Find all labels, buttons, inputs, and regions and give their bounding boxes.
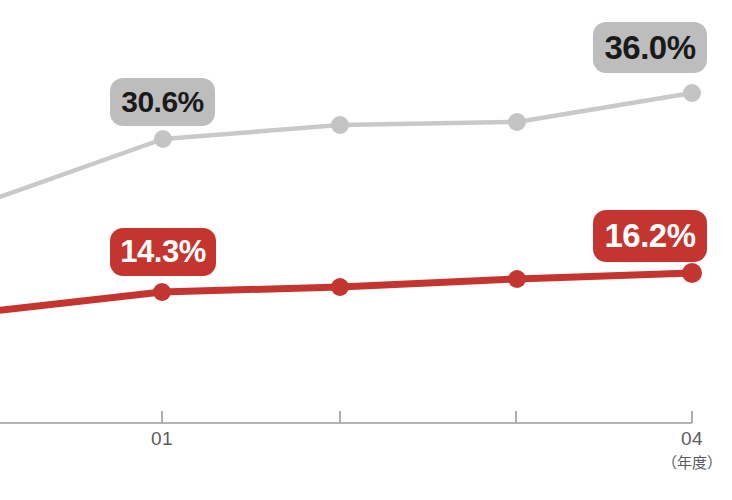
red-point-04 xyxy=(682,263,702,283)
value-badge-gray-01: 30.6% xyxy=(110,78,215,126)
x-axis-ticks xyxy=(162,411,692,423)
gray-point-03 xyxy=(508,113,526,131)
red-point-03 xyxy=(508,270,526,288)
red-point-01 xyxy=(153,283,171,301)
value-badge-gray-04: 36.0% xyxy=(593,22,707,73)
x-axis-unit-label: （年度） xyxy=(662,451,722,472)
x-tick-label-04: 04 （年度） xyxy=(662,428,722,472)
series-gray xyxy=(0,84,701,199)
x-tick-label-04-year: 04 xyxy=(681,428,703,449)
value-badge-red-01: 14.3% xyxy=(110,228,216,276)
red-point-02 xyxy=(331,278,349,296)
gray-series-line xyxy=(0,93,692,199)
gray-point-01 xyxy=(154,130,172,148)
gray-point-02 xyxy=(331,116,349,134)
chart-container: 30.6% 36.0% 14.3% 16.2% 01 04 （年度） xyxy=(0,0,732,500)
x-tick-label-01: 01 xyxy=(132,428,192,450)
series-red xyxy=(0,263,702,311)
gray-point-04 xyxy=(683,84,701,102)
value-badge-red-04: 16.2% xyxy=(593,210,707,262)
